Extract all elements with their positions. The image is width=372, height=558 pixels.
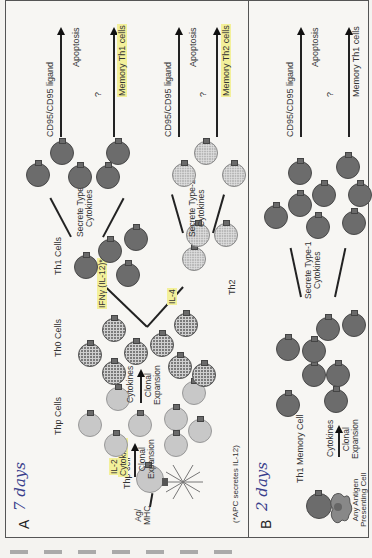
label-footnote: (*APC secretes IL-12) bbox=[232, 445, 241, 523]
arrow-apoptosis-1-shaft bbox=[60, 33, 62, 137]
label-cytokines-b: Cytokines bbox=[326, 420, 335, 457]
th1-cell bbox=[288, 161, 312, 185]
th1-cell bbox=[276, 337, 300, 361]
label-apoptosis-1: Apoptosis bbox=[72, 27, 82, 67]
th2-cell bbox=[214, 223, 238, 247]
panel-a-note: 7 days bbox=[11, 462, 29, 511]
figure-stage: A 7 days Thp cell Ag/ MHC IL-2 Cytokines… bbox=[5, 0, 369, 538]
th0-cell bbox=[174, 313, 198, 337]
arrow-b-apoptosis-shaft bbox=[300, 33, 302, 137]
label-question-2: ? bbox=[199, 92, 209, 97]
th0-cell bbox=[150, 333, 174, 357]
th1-cell bbox=[348, 183, 372, 207]
dendritic-apc-icon bbox=[158, 457, 208, 507]
arrow-type1-up bbox=[49, 198, 71, 238]
th1-cell bbox=[306, 215, 330, 239]
label-clonal-expansion-b: Clonal Expansion bbox=[342, 419, 360, 459]
label-clonal-expansion-1: Clonal Expansion bbox=[138, 439, 156, 479]
panel-a-letter: A bbox=[16, 520, 32, 529]
th1-cell bbox=[302, 363, 326, 387]
th1-cell bbox=[96, 165, 120, 189]
arrow-b-type1-down bbox=[334, 248, 346, 297]
label-memory-th1-b: Memory Th1 cells bbox=[352, 26, 362, 97]
caption-strip bbox=[0, 540, 369, 550]
label-th2: Th2 bbox=[228, 279, 238, 295]
label-cd95-b: CD95/CD95 ligand bbox=[286, 62, 296, 137]
th1-cell bbox=[276, 393, 300, 417]
th1-cell bbox=[342, 211, 366, 235]
th1-cell bbox=[98, 239, 122, 263]
arrow-type1-down bbox=[102, 198, 124, 238]
th0-cell bbox=[168, 355, 192, 379]
th1-cell bbox=[288, 193, 312, 217]
thp-cell bbox=[78, 413, 102, 437]
th0-cell bbox=[102, 361, 126, 385]
th1-cell bbox=[302, 339, 326, 363]
arrow-b-type1-up bbox=[290, 248, 302, 297]
th0-cell bbox=[78, 343, 102, 367]
label-secrete-type1-b: Secrete Type-1 Cytokines bbox=[304, 242, 322, 300]
th0-cell bbox=[102, 318, 126, 342]
thp-cell bbox=[188, 419, 212, 443]
thp-cell bbox=[104, 433, 128, 457]
arrow-1-shaft bbox=[134, 449, 136, 477]
label-thp-cells: Thp Cells bbox=[54, 397, 64, 435]
label-cd95-2: CD95/CD95 ligand bbox=[164, 62, 174, 137]
arrow-2-shaft bbox=[140, 375, 142, 403]
th1-cell bbox=[324, 389, 348, 413]
th1-cell bbox=[316, 317, 340, 341]
th1-cell bbox=[74, 255, 98, 279]
label-clonal-expansion-2: Clonal Expansion bbox=[144, 365, 162, 405]
th1-cell bbox=[124, 227, 148, 251]
th1-cell bbox=[50, 141, 74, 165]
arrow-memory-th1-shaft bbox=[113, 33, 115, 137]
arrow-apoptosis-2-head-icon bbox=[175, 27, 183, 35]
label-question-b: ? bbox=[326, 92, 336, 97]
th0-cell bbox=[192, 363, 216, 387]
arrow-b-memory-shaft bbox=[348, 33, 350, 137]
th1-cell bbox=[68, 165, 92, 189]
thp-cell bbox=[128, 413, 152, 437]
th2-cell bbox=[182, 247, 206, 271]
arrow-memory-th2-shaft bbox=[216, 33, 218, 137]
arrow-type2-up bbox=[171, 194, 183, 233]
th1-cell bbox=[264, 205, 288, 229]
panel-divider bbox=[248, 0, 249, 537]
label-th0-cells: Th0 Cells bbox=[54, 319, 64, 357]
label-apc: Any Antigen Presenting Cell bbox=[352, 473, 369, 527]
th1-cell bbox=[26, 163, 50, 187]
panel-b-letter: B bbox=[258, 520, 274, 529]
t-cell-differentiation-figure: A 7 days Thp cell Ag/ MHC IL-2 Cytokines… bbox=[5, 0, 369, 538]
label-ifn-gamma: IFNγ (IL-12)* bbox=[98, 258, 107, 309]
label-ag-mhc: Ag/ MHC bbox=[134, 506, 152, 525]
th1-cell bbox=[116, 263, 140, 287]
arrow-b-apoptosis-head-icon bbox=[297, 27, 305, 35]
label-memory-th2: Memory Th2 cells bbox=[222, 24, 232, 97]
arrow-apoptosis-1-head-icon bbox=[57, 27, 65, 35]
label-il4: IL-4 bbox=[168, 288, 177, 305]
thp-cell bbox=[164, 433, 188, 457]
arrow-b1-shaft bbox=[338, 431, 340, 457]
label-secrete-type2: Secrete Type-2 Cytokines bbox=[188, 180, 206, 238]
arrow-memory-th2-head-icon bbox=[213, 27, 221, 35]
label-th1-memory-cell: Th1 Memory Cell bbox=[296, 414, 306, 483]
arrow-apoptosis-2-shaft bbox=[178, 33, 180, 137]
th2-cell bbox=[172, 163, 196, 187]
label-apoptosis-2: Apoptosis bbox=[189, 27, 199, 67]
label-question-1: ? bbox=[94, 92, 104, 97]
label-cd95-1: CD95/CD95 ligand bbox=[46, 62, 56, 137]
th2-cell bbox=[194, 141, 218, 165]
th1-cell bbox=[312, 183, 336, 207]
panel-b-note: 2 days bbox=[253, 462, 271, 511]
th2-cell bbox=[222, 163, 246, 187]
th1-cell bbox=[106, 141, 130, 165]
th1-cell bbox=[326, 363, 350, 387]
thp-cell bbox=[164, 407, 188, 431]
th1-cell bbox=[336, 155, 360, 179]
label-apoptosis-b: Apoptosis bbox=[311, 27, 321, 67]
label-memory-th1: Memory Th1 cells bbox=[118, 24, 128, 97]
th1-cell bbox=[342, 313, 366, 337]
label-cytokines-2: Cytokines bbox=[126, 366, 135, 403]
th0-cell bbox=[124, 341, 148, 365]
label-th1-cells: Th1 Cells bbox=[54, 237, 64, 275]
